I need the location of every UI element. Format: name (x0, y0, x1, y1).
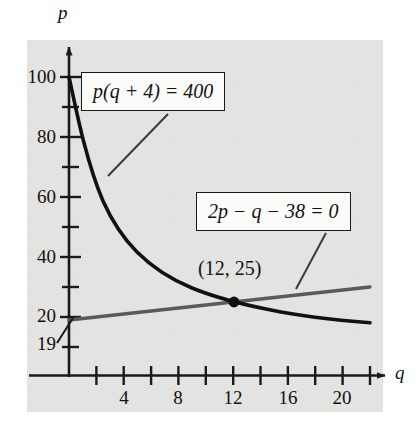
intersection-point-marker (229, 297, 240, 308)
supply-line (69, 287, 370, 320)
figure-container: p q 100 80 60 40 20 19 4 8 12 16 20 p(q … (0, 0, 419, 435)
x-tick-label-20: 20 (322, 388, 362, 407)
nineteen-callout-leader (57, 318, 73, 343)
y-tick-label-20: 20 (12, 306, 56, 325)
y-tick-label-100: 100 (12, 67, 56, 86)
y-tick-label-40: 40 (12, 247, 56, 266)
demand-label-leader (108, 114, 168, 176)
supply-equation-box: 2p − q − 38 = 0 (196, 192, 351, 231)
x-tick-label-4: 4 (104, 388, 144, 407)
intersection-point-label: (12, 25) (198, 258, 261, 278)
supply-label-leader (296, 233, 326, 289)
x-tick-label-12: 12 (213, 388, 253, 407)
y-tick-label-19: 19 (12, 334, 56, 353)
x-tick-label-16: 16 (268, 388, 308, 407)
demand-equation-box: p(q + 4) = 400 (81, 72, 225, 111)
y-tick-label-60: 60 (12, 187, 56, 206)
x-axis-label: q (395, 363, 405, 382)
y-axis-label: p (58, 3, 68, 22)
y-tick-label-80: 80 (12, 127, 56, 146)
x-tick-label-8: 8 (158, 388, 198, 407)
